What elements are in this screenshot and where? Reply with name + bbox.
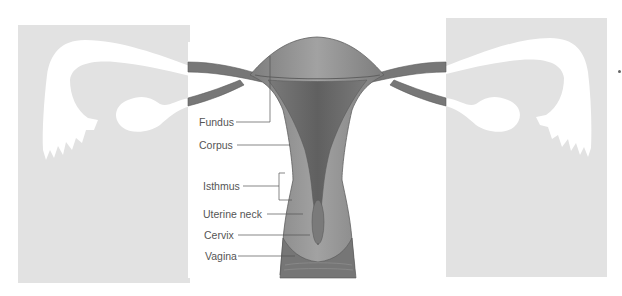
label-uterine-neck: Uterine neck: [203, 208, 262, 220]
uterus-illustration: [0, 0, 622, 296]
label-corpus: Corpus: [199, 139, 233, 151]
cervical-canal: [312, 200, 324, 244]
label-isthmus: Isthmus: [203, 180, 240, 192]
leader-isthmus: [243, 173, 292, 200]
label-vagina: Vagina: [205, 250, 237, 262]
label-fundus: Fundus: [199, 116, 234, 128]
stray-dot-mark: [618, 70, 621, 73]
label-cervix: Cervix: [204, 229, 234, 241]
left-fallopian-tube-silhouette: [43, 40, 190, 160]
right-fallopian-tube-silhouette: [446, 38, 591, 157]
